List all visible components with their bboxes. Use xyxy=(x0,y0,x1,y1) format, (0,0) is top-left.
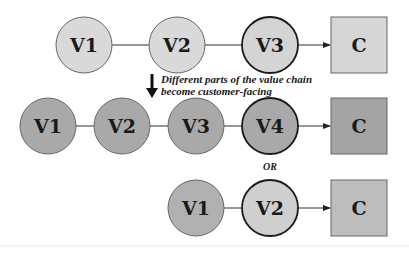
node-v3: V3 xyxy=(168,98,224,154)
svg-text:V3: V3 xyxy=(255,34,284,56)
svg-text:V2: V2 xyxy=(255,197,284,219)
or-separator: OR xyxy=(263,161,277,172)
node-v2: V2 xyxy=(149,17,205,73)
node-v1: V1 xyxy=(20,98,76,154)
svg-text:V1: V1 xyxy=(181,197,210,219)
svg-text:C: C xyxy=(351,115,366,137)
node-v1: V1 xyxy=(56,17,112,73)
row-3-shortened-chain: V1 V2 C xyxy=(168,180,387,236)
svg-text:C: C xyxy=(351,197,366,219)
node-v2: V2 xyxy=(94,98,150,154)
node-customer: C xyxy=(331,98,387,154)
row-2-extended-chain: V1 V2 V3 V4 C xyxy=(20,98,387,154)
node-v4-customer-facing: V4 xyxy=(242,98,298,154)
svg-text:V2: V2 xyxy=(107,115,136,137)
svg-text:V1: V1 xyxy=(33,115,62,137)
svg-text:V4: V4 xyxy=(255,115,284,137)
row-1-original-chain: V1 V2 V3 C xyxy=(56,17,387,73)
node-v1: V1 xyxy=(168,180,224,236)
node-v2-customer-facing: V2 xyxy=(242,180,298,236)
node-v3-customer-facing: V3 xyxy=(242,17,298,73)
node-customer: C xyxy=(331,180,387,236)
svg-text:V1: V1 xyxy=(69,34,98,56)
svg-text:C: C xyxy=(351,34,366,56)
svg-text:V2: V2 xyxy=(162,34,191,56)
annotation-line-1: Different parts of the value chain xyxy=(160,73,312,85)
transition-annotation: Different parts of the value chain becom… xyxy=(146,73,312,98)
down-arrow-icon xyxy=(146,74,158,98)
value-chain-diagram: V1 V2 V3 C Different parts of the value … xyxy=(0,0,409,255)
node-customer: C xyxy=(331,17,387,73)
svg-text:V3: V3 xyxy=(181,115,210,137)
annotation-line-2: become customer-facing xyxy=(161,85,272,97)
